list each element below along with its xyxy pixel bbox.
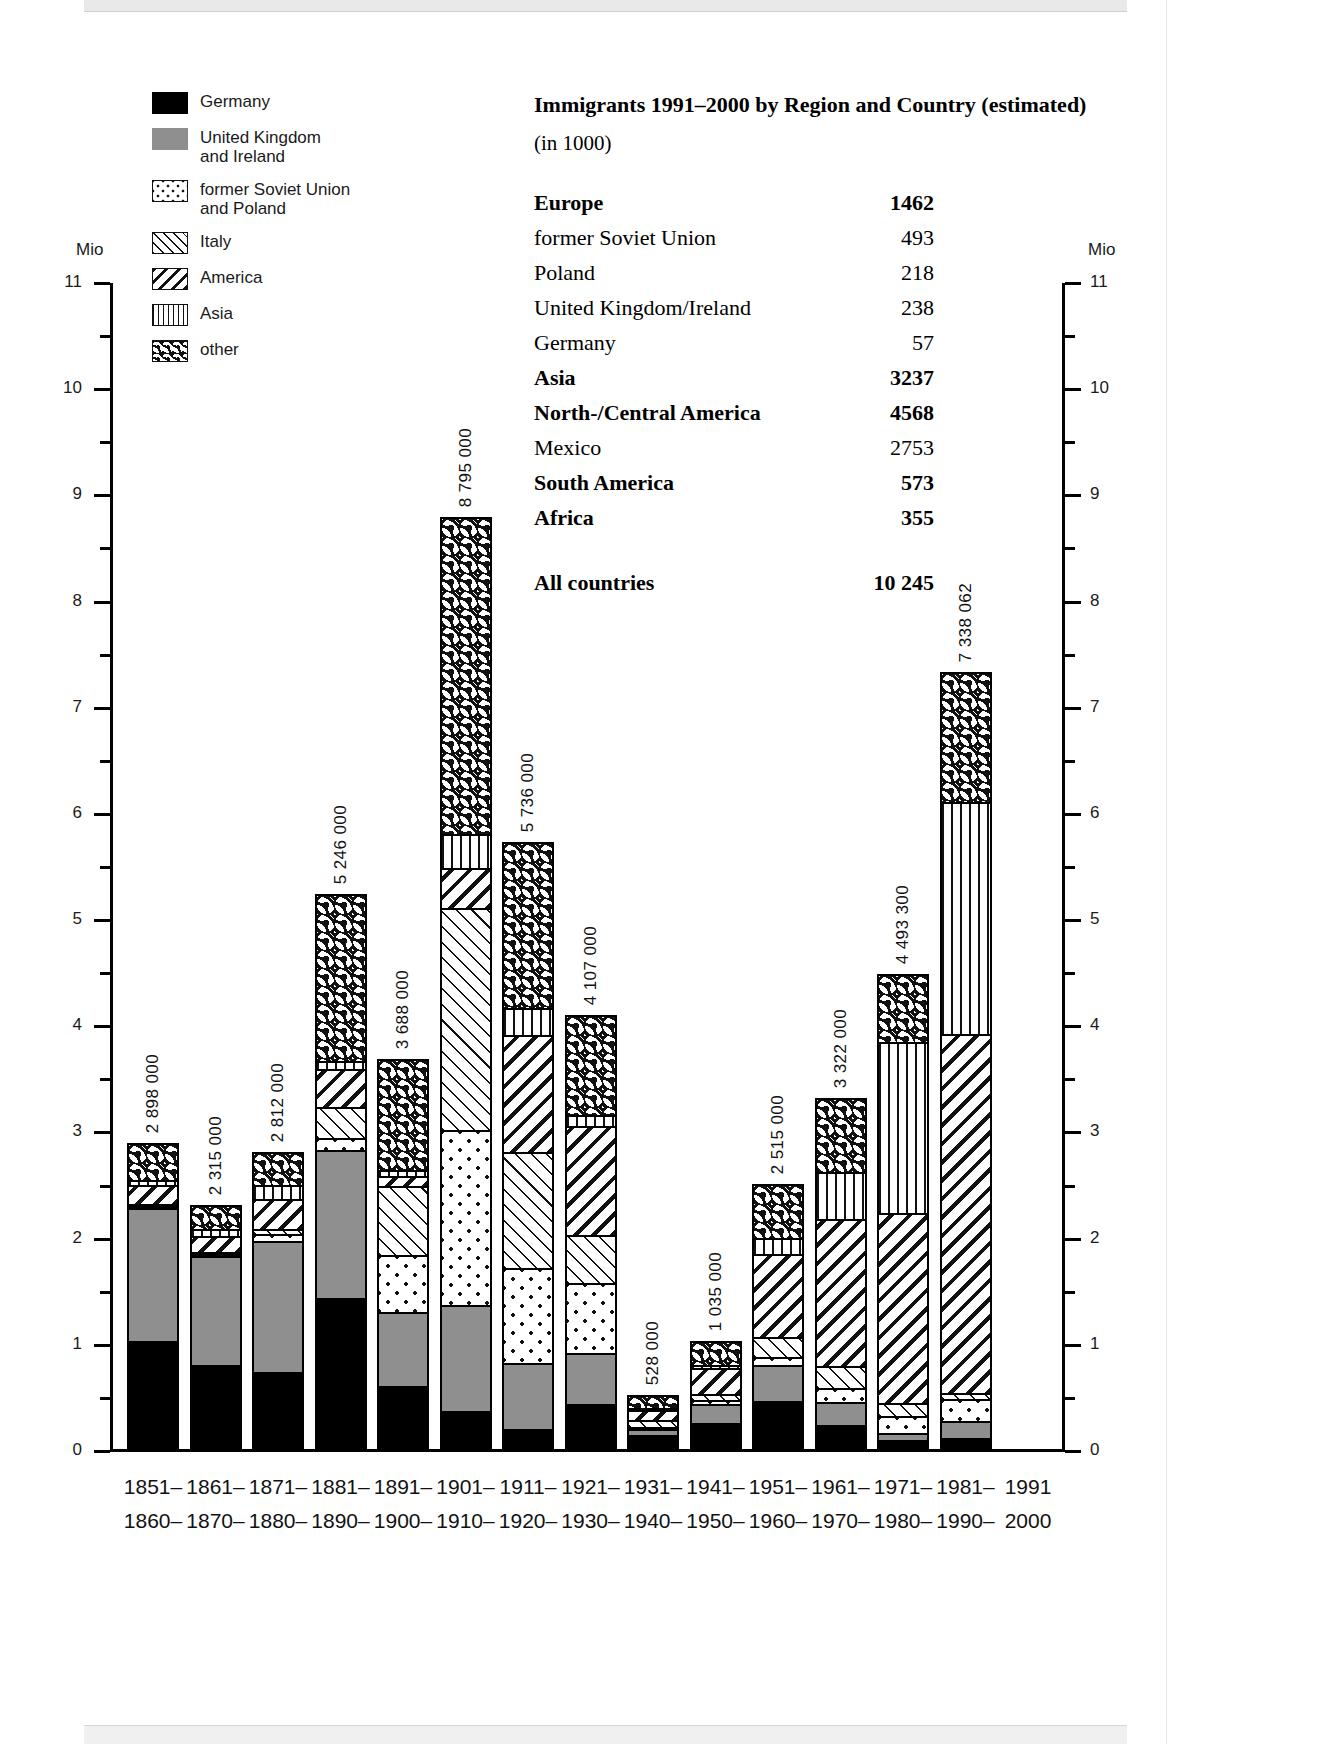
left-axis-tick (100, 1291, 110, 1294)
bar-segment-italy (567, 1237, 615, 1285)
bar-segment-italy (817, 1368, 865, 1390)
bar-1861–1870 (190, 1205, 242, 1451)
bar-segment-soviet (442, 1132, 490, 1308)
left-axis-tick (94, 1450, 110, 1453)
bar-segment-asia (504, 1010, 552, 1036)
right-axis-tick (1065, 335, 1075, 338)
table-row: Europe1462 (534, 190, 1134, 225)
bar-segment-america (567, 1128, 615, 1236)
right-axis-tick (1065, 1025, 1081, 1028)
left-axis-tick (94, 388, 110, 391)
bar-total-label: 1 035 000 (706, 1252, 726, 1331)
bar-segment-asia (754, 1240, 802, 1256)
bar-1961–1970 (815, 1098, 867, 1451)
left-axis-tick (100, 1397, 110, 1400)
bar-segment-asia (317, 1063, 365, 1070)
right-axis-tick (1065, 1397, 1075, 1400)
bar-segment-italy (754, 1339, 802, 1359)
bar-segment-italy (317, 1109, 365, 1141)
left-axis-tick (94, 813, 110, 816)
bar-segment-germany (192, 1367, 240, 1449)
bar-segment-germany (254, 1374, 302, 1449)
left-axis-tick-label: 10 (52, 378, 82, 398)
bar-segment-italy (442, 910, 490, 1132)
bar-1851–1860 (127, 1143, 179, 1451)
left-axis-tick-label: 0 (52, 1440, 82, 1460)
bar-segment-soviet (879, 1418, 927, 1435)
bar-total-label: 2 515 000 (768, 1095, 788, 1174)
legend-label: United Kingdomand Ireland (200, 128, 321, 166)
bar-total-label: 2 812 000 (268, 1063, 288, 1142)
bar-total-label: 8 795 000 (456, 428, 476, 507)
bar-1901–1910 (440, 517, 492, 1451)
right-axis-tick (1065, 707, 1081, 710)
left-axis-tick (100, 654, 110, 657)
bar-segment-asia (942, 804, 990, 1036)
bar-total-label: 5 736 000 (518, 753, 538, 832)
bar-segment-other (692, 1343, 740, 1367)
left-axis-tick (94, 282, 110, 285)
right-axis-tick (1065, 1291, 1075, 1294)
left-axis-tick (100, 972, 110, 975)
bar-segment-america (942, 1036, 990, 1395)
bar-segment-america (754, 1256, 802, 1340)
left-axis-tick-label: 9 (52, 484, 82, 504)
legend-item-uk: United Kingdomand Ireland (152, 128, 482, 166)
left-axis-tick-label: 1 (52, 1334, 82, 1354)
left-axis-tick-label: 5 (52, 909, 82, 929)
bar-segment-germany (817, 1427, 865, 1449)
left-axis-tick-label: 8 (52, 591, 82, 611)
right-axis-tick (1065, 866, 1075, 869)
bar-segment-italy (629, 1422, 677, 1429)
right-axis-tick (1065, 1238, 1081, 1241)
bar-total-label: 528 000 (643, 1321, 663, 1385)
left-axis-tick (94, 1131, 110, 1134)
right-axis-tick (1065, 1185, 1075, 1188)
left-axis-tick-label: 7 (52, 697, 82, 717)
bar-total-label: 3 688 000 (393, 970, 413, 1049)
left-axis-tick (94, 1238, 110, 1241)
right-axis-tick (1065, 282, 1081, 285)
left-axis-tick-label: 3 (52, 1121, 82, 1141)
bar-segment-asia (817, 1174, 865, 1221)
legend-label: Germany (200, 92, 270, 111)
bar-segment-america (317, 1071, 365, 1109)
bar-segment-germany (442, 1413, 490, 1449)
y-axis-unit-right: Mio (1088, 240, 1115, 260)
bar-segment-uk (129, 1210, 177, 1344)
bar-segment-germany (629, 1437, 677, 1449)
left-axis-tick (100, 1078, 110, 1081)
bar-segment-other (379, 1061, 427, 1171)
bar-1891–1900 (377, 1059, 429, 1451)
left-axis-tick (94, 707, 110, 710)
bar-1911–1920 (502, 842, 554, 1451)
legend-label: Italy (200, 232, 231, 251)
bar-segment-asia (567, 1117, 615, 1129)
bars-area: 2 898 0002 315 0002 812 0005 246 0003 68… (113, 283, 1062, 1451)
bar-segment-uk (379, 1314, 427, 1388)
left-axis-tick (100, 866, 110, 869)
bar-segment-america (879, 1215, 927, 1405)
x-axis-labels: 1851–1860–1861–1870–1871–1880–1881–1890–… (113, 1470, 1093, 1550)
bar-total-label: 2 898 000 (143, 1054, 163, 1133)
right-axis-tick (1065, 1344, 1081, 1347)
left-axis-tick (100, 760, 110, 763)
bar-segment-uk (567, 1355, 615, 1405)
soviet-swatch-icon (152, 180, 188, 202)
right-axis-tick-label: 5 (1090, 909, 1120, 929)
table-cell-value: 1462 (834, 190, 934, 216)
bar-1951–1960 (752, 1184, 804, 1451)
bar-1941–1950 (690, 1341, 742, 1451)
right-axis-tick-label: 2 (1090, 1228, 1120, 1248)
right-axis-tick (1065, 760, 1075, 763)
bar-segment-asia (254, 1187, 302, 1201)
bar-segment-uk (504, 1365, 552, 1431)
italy-swatch-icon (152, 232, 188, 254)
left-axis-tick (94, 601, 110, 604)
right-axis-tick-label: 8 (1090, 591, 1120, 611)
bar-total-label: 7 338 062 (956, 583, 976, 662)
table-title: Immigrants 1991–2000 by Region and Count… (534, 90, 1134, 120)
table-cell-value: 493 (834, 225, 934, 251)
left-axis-tick-label: 11 (52, 272, 82, 292)
bar-segment-germany (567, 1406, 615, 1449)
